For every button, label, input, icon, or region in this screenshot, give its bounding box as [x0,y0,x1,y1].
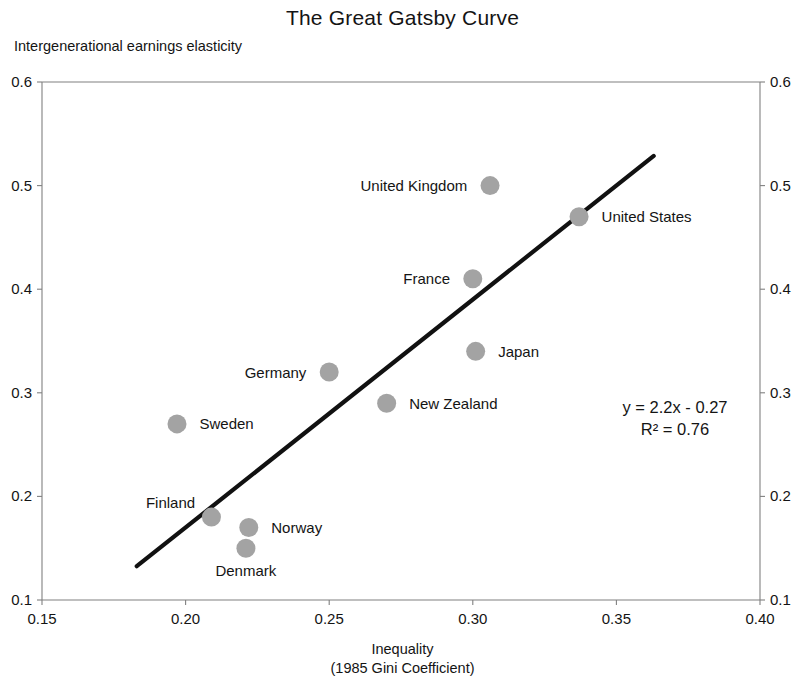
y-axis-tick-label-left: 0.4 [0,280,32,297]
y-axis-tick-label-left: 0.5 [0,177,32,194]
regression-r-squared: R² = 0.76 [600,418,750,440]
great-gatsby-curve-chart: The Great Gatsby Curve Intergenerational… [0,0,805,685]
data-point-label: France [403,270,450,287]
data-point-marker [202,508,221,527]
y-axis-tick-label-right: 0.5 [770,177,791,194]
data-point-marker [481,176,500,195]
data-point-label: Sweden [199,415,253,432]
y-axis-tick-label-right: 0.4 [770,280,791,297]
data-points [167,176,588,558]
y-axis-tick-label-left: 0.3 [0,384,32,401]
plot-area [0,0,805,685]
data-point-marker [377,394,396,413]
data-point-marker [239,518,258,537]
y-axis-tick-label-right: 0.2 [770,487,791,504]
x-axis-tick-label: 0.30 [433,610,513,627]
y-axis-tick-label-right: 0.1 [770,591,791,608]
data-point-label: Norway [271,519,322,536]
data-point-label: United States [602,208,692,225]
x-axis-tick-label: 0.20 [146,610,226,627]
x-axis-label-sub: (1985 Gini Coefficient) [0,659,805,678]
x-axis-tick-label: 0.40 [720,610,800,627]
data-point-marker [167,414,186,433]
data-point-label: United Kingdom [361,177,468,194]
regression-equation: y = 2.2x - 0.27 [600,396,750,418]
data-point-label: Germany [245,364,307,381]
data-point-marker [570,207,589,226]
axis-ticks [37,82,765,605]
regression-annotation: y = 2.2x - 0.27 R² = 0.76 [600,396,750,441]
data-point-marker [236,539,255,558]
x-axis-label-main: Inequality [0,640,805,659]
x-axis-tick-label: 0.25 [289,610,369,627]
x-axis-tick-label: 0.35 [576,610,656,627]
data-point-marker [320,363,339,382]
data-point-label: Finland [146,494,195,511]
data-point-marker [466,342,485,361]
y-axis-tick-label-left: 0.1 [0,591,32,608]
data-point-label: Denmark [215,562,276,579]
data-point-marker [463,269,482,288]
x-axis-tick-label: 0.15 [2,610,82,627]
x-axis-label: Inequality (1985 Gini Coefficient) [0,640,805,678]
y-axis-tick-label-left: 0.6 [0,73,32,90]
y-axis-tick-label-left: 0.2 [0,487,32,504]
y-axis-tick-label-right: 0.3 [770,384,791,401]
y-axis-tick-label-right: 0.6 [770,73,791,90]
data-point-label: Japan [498,343,539,360]
data-point-label: New Zealand [409,395,497,412]
